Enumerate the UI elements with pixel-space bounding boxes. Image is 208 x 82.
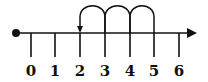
tick-label-1: 1 [50,62,60,80]
jump-arcs [80,6,154,33]
tick-label-2: 2 [75,62,85,80]
tick-labels: 0 1 2 3 4 5 6 [26,62,184,80]
ticks [31,33,179,57]
jump-arc-4-to-3 [105,6,130,33]
number-line-diagram: 0 1 2 3 4 5 6 [0,0,208,82]
tick-label-5: 5 [149,62,159,80]
tick-label-6: 6 [174,62,184,80]
tick-label-3: 3 [100,62,110,80]
start-dot [12,29,20,37]
arrow-down-icon [77,26,83,33]
jump-arc-5-to-4 [130,6,154,33]
tick-label-4: 4 [125,62,135,80]
arrow-right-icon [187,28,197,38]
tick-label-0: 0 [26,62,36,80]
jump-arc-3-to-2 [80,6,105,33]
